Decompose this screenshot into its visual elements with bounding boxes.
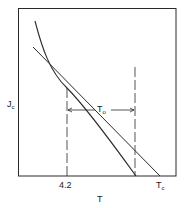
y-axis-label: Jc	[7, 100, 15, 110]
to-annotation: To	[97, 105, 106, 115]
x-axis-label: T	[97, 195, 103, 204]
jc-curve	[35, 21, 136, 176]
x-tick-4-2: 4.2	[59, 181, 72, 190]
x-tick-tc-sub: c	[162, 185, 165, 191]
plot-frame	[19, 9, 177, 177]
jc-vs-t-diagram	[0, 0, 184, 208]
y-axis-label-sub: c	[12, 104, 15, 110]
to-annotation-sub: o	[103, 109, 106, 115]
x-tick-tc: Tc	[156, 181, 165, 191]
